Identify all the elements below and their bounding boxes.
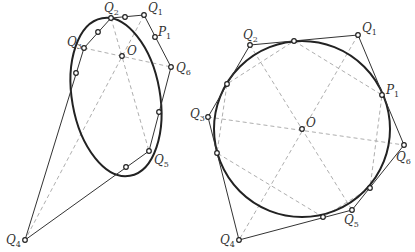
point-q6 [402, 143, 407, 148]
point-o [120, 54, 125, 59]
point-q4 [237, 238, 242, 243]
point-o [300, 127, 305, 132]
point-q1 [142, 13, 147, 18]
point-q2 [109, 16, 114, 21]
label-q1: Q1 [362, 21, 377, 37]
points [23, 13, 174, 243]
label-p1: P1 [157, 25, 171, 41]
point-p1 [153, 35, 158, 40]
label-q1: Q1 [148, 1, 163, 17]
label-q4: Q4 [6, 233, 21, 249]
point-q6 [169, 65, 174, 70]
ellipse-figure: Q2 Q1 P1 Q3 O Q6 Q5 Q4 [6, 1, 191, 249]
label-q2: Q2 [243, 28, 258, 44]
label-o: O [306, 116, 316, 130]
tangent-polygon [208, 35, 404, 240]
label-q6: Q6 [396, 150, 411, 166]
label-q6: Q6 [176, 61, 191, 77]
diagram-canvas: Q2 Q1 P1 Q3 O Q6 Q5 Q4 [0, 0, 415, 252]
point-q5 [147, 149, 152, 154]
point-q3 [206, 115, 211, 120]
label-q4: Q4 [220, 233, 235, 249]
tangent-polygon [25, 15, 171, 240]
point-q4 [23, 238, 28, 243]
point-q1 [356, 33, 361, 38]
label-q5: Q5 [154, 153, 169, 169]
label-o: O [127, 44, 137, 58]
label-q2: Q2 [104, 1, 119, 17]
label-q3: Q3 [190, 107, 205, 123]
point-q5 [350, 208, 355, 213]
dashed-lines [25, 15, 171, 240]
point-p1 [380, 93, 385, 98]
label-q5: Q5 [344, 213, 359, 229]
points [206, 33, 407, 243]
label-p1: P1 [385, 83, 399, 99]
point-q2 [248, 43, 253, 48]
circle-figure: Q2 Q1 P1 Q3 O Q6 Q5 Q4 [190, 21, 411, 249]
point-q3 [82, 46, 87, 51]
